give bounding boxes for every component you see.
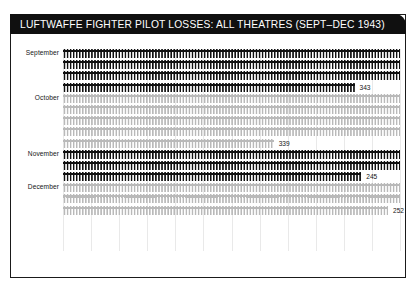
value-label: 245 bbox=[366, 172, 377, 181]
aircraft-icon-run bbox=[63, 139, 274, 148]
pictogram-row bbox=[11, 194, 404, 203]
value-label: 339 bbox=[279, 139, 290, 148]
pictogram-rows: September343October339November245Decembe… bbox=[11, 49, 404, 217]
aircraft-icon-run bbox=[63, 127, 400, 136]
chart-page: LUFTWAFFE FIGHTER PILOT LOSSES: ALL THEA… bbox=[0, 0, 416, 292]
pictogram-row: 245 bbox=[11, 172, 404, 181]
aircraft-icon-run bbox=[63, 183, 400, 192]
pictogram-row: 343 bbox=[11, 83, 404, 92]
pictogram-row bbox=[11, 94, 404, 103]
pictogram-row bbox=[11, 116, 404, 125]
pictogram-row: 339 bbox=[11, 139, 404, 148]
aircraft-icon-run bbox=[63, 49, 400, 58]
aircraft-icon-run bbox=[63, 71, 400, 80]
plot-area: September343October339November245Decembe… bbox=[11, 35, 404, 277]
pictogram-row bbox=[11, 105, 404, 114]
pictogram-row bbox=[11, 127, 404, 136]
pictogram-row bbox=[11, 49, 404, 58]
aircraft-icon-run bbox=[63, 116, 400, 125]
month-block: December252 bbox=[11, 183, 404, 214]
chart-title-bar: LUFTWAFFE FIGHTER PILOT LOSSES: ALL THEA… bbox=[10, 14, 406, 34]
aircraft-icon-run bbox=[63, 172, 361, 181]
value-label: 252 bbox=[393, 206, 404, 215]
aircraft-icon-run bbox=[63, 194, 400, 203]
month-block: November245 bbox=[11, 150, 404, 181]
month-block: September343 bbox=[11, 49, 404, 92]
aircraft-icon-run bbox=[63, 206, 388, 215]
pictogram-row bbox=[11, 60, 404, 69]
aircraft-icon-run bbox=[63, 161, 400, 170]
pictogram-row bbox=[11, 150, 404, 159]
value-label: 343 bbox=[360, 83, 371, 92]
aircraft-icon-run bbox=[63, 83, 355, 92]
aircraft-icon-run bbox=[63, 105, 400, 114]
month-block: October339 bbox=[11, 94, 404, 148]
page-title: LUFTWAFFE FIGHTER PILOT LOSSES: ALL THEA… bbox=[10, 19, 385, 30]
aircraft-icon-run bbox=[63, 150, 400, 159]
pictogram-row bbox=[11, 161, 404, 170]
pictogram-row bbox=[11, 183, 404, 192]
aircraft-icon-run bbox=[63, 94, 400, 103]
aircraft-icon-run bbox=[63, 60, 400, 69]
pictogram-row bbox=[11, 71, 404, 80]
pictogram-row: 252 bbox=[11, 206, 404, 215]
